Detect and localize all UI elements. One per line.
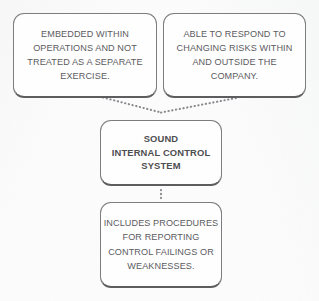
node-procedures-text: INCLUDES PROCEDURES FOR REPORTING CONTRO…	[97, 216, 226, 273]
diagram-canvas: EMBEDDED WITHIN OPERATIONS AND NOT TREAT…	[0, 0, 319, 301]
node-embedded-line-2: OPERATIONS AND NOT	[21, 41, 149, 55]
node-respond-text: ABLE TO RESPOND TO CHANGING RISKS WITHIN…	[164, 27, 305, 84]
node-respond-line-2: CHANGING RISKS WITHIN	[171, 41, 298, 55]
node-embedded-line-4: EXERCISE.	[21, 69, 149, 83]
node-core-line-1: SOUND	[108, 132, 214, 145]
connector-respond-to-core	[161, 98, 239, 113]
node-embedded-text: EMBEDDED WITHIN OPERATIONS AND NOT TREAT…	[14, 27, 156, 84]
node-embedded-line-3: TREATED AS A SEPARATE	[21, 55, 149, 69]
node-embedded-within-operations[interactable]: EMBEDDED WITHIN OPERATIONS AND NOT TREAT…	[13, 13, 157, 98]
node-able-to-respond[interactable]: ABLE TO RESPOND TO CHANGING RISKS WITHIN…	[163, 13, 306, 98]
node-sound-internal-control-system[interactable]: SOUND INTERNAL CONTROL SYSTEM	[100, 120, 222, 186]
node-respond-line-3: AND OUTSIDE THE	[171, 55, 298, 69]
node-includes-procedures[interactable]: INCLUDES PROCEDURES FOR REPORTING CONTRO…	[100, 202, 222, 288]
node-core-text: SOUND INTERNAL CONTROL SYSTEM	[101, 132, 221, 172]
node-core-line-2: INTERNAL CONTROL	[108, 146, 214, 159]
node-procedures-line-3: CONTROL FAILINGS OR	[104, 245, 219, 259]
node-respond-line-1: ABLE TO RESPOND TO	[171, 27, 298, 41]
connector-embedded-to-core	[103, 98, 161, 113]
node-procedures-line-4: WEAKNESSES.	[104, 259, 219, 273]
node-procedures-line-2: FOR REPORTING	[104, 230, 219, 244]
node-core-line-3: SYSTEM	[108, 159, 214, 172]
node-procedures-line-1: INCLUDES PROCEDURES	[104, 216, 219, 230]
node-respond-line-4: COMPANY.	[171, 69, 298, 83]
node-embedded-line-1: EMBEDDED WITHIN	[21, 27, 149, 41]
